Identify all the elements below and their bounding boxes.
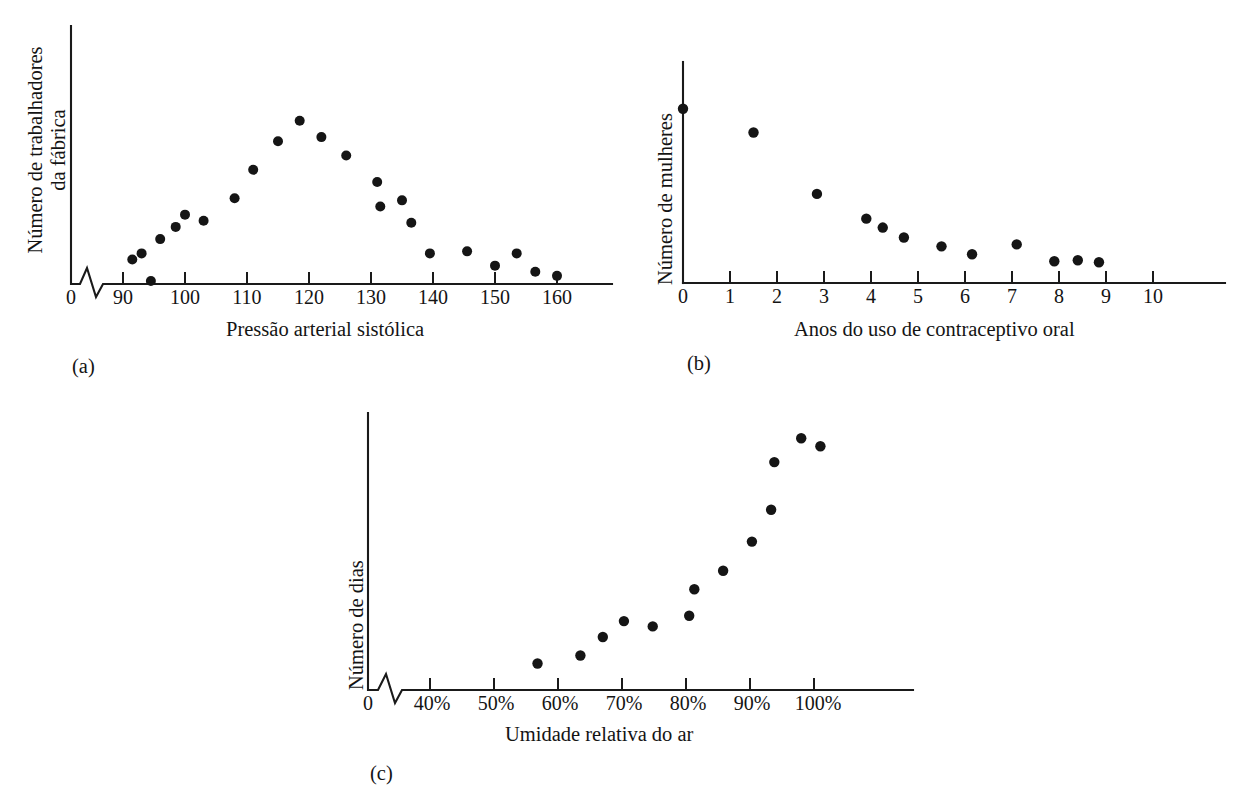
panel-b-x-ticks (683, 271, 1153, 283)
data-point (199, 216, 209, 226)
svg-text:6: 6 (960, 285, 970, 307)
data-point (1073, 255, 1083, 265)
svg-text:4: 4 (866, 285, 876, 307)
data-point (967, 249, 977, 259)
panel-c-plot: 0 40% 50% 60% 70% 80% 90% 100% (300, 400, 1000, 710)
panel-c-x-axis-label: Umidade relativa do ar (505, 723, 693, 746)
data-point (248, 165, 258, 175)
svg-text:120: 120 (294, 286, 324, 308)
svg-text:140: 140 (418, 286, 448, 308)
svg-text:40%: 40% (414, 692, 451, 714)
data-point (372, 177, 382, 187)
svg-text:60%: 60% (542, 692, 579, 714)
data-point (1094, 257, 1104, 267)
svg-text:10: 10 (1143, 285, 1163, 307)
data-point (375, 201, 385, 211)
svg-text:7: 7 (1007, 285, 1017, 307)
data-point (899, 232, 909, 242)
data-point (171, 222, 181, 232)
panel-c-x-ticks (430, 678, 814, 690)
data-point (552, 271, 562, 281)
svg-text:70%: 70% (606, 692, 643, 714)
data-point (530, 267, 540, 277)
svg-text:100: 100 (170, 286, 200, 308)
svg-text:50%: 50% (478, 692, 515, 714)
data-point (155, 234, 165, 244)
data-point (936, 241, 946, 251)
data-point (648, 621, 658, 631)
data-point (137, 248, 147, 258)
data-point (127, 255, 137, 265)
panel-a-origin-label: 0 (66, 286, 76, 308)
data-point (1012, 239, 1022, 249)
data-point (462, 246, 472, 256)
data-point (796, 433, 806, 443)
panel-b-x-tick-labels: 0 1 2 3 4 5 6 7 8 9 10 (678, 285, 1163, 307)
svg-text:90%: 90% (734, 692, 771, 714)
panel-b: Número de mulheres 0 1 2 3 4 5 6 7 (625, 0, 1250, 390)
data-point (146, 276, 156, 286)
data-point (406, 218, 416, 228)
data-point (748, 127, 758, 137)
svg-text:9: 9 (1101, 285, 1111, 307)
data-point (1049, 256, 1059, 266)
svg-text:90: 90 (113, 286, 133, 308)
data-point (180, 210, 190, 220)
data-point (397, 195, 407, 205)
svg-text:100%: 100% (795, 692, 842, 714)
svg-text:110: 110 (232, 286, 261, 308)
data-point (425, 248, 435, 258)
data-point (316, 132, 326, 142)
svg-text:5: 5 (913, 285, 923, 307)
panel-b-plot: 0 1 2 3 4 5 6 7 8 9 10 (625, 0, 1250, 310)
svg-text:0: 0 (678, 285, 688, 307)
data-point (861, 213, 871, 223)
data-point (684, 611, 694, 621)
panel-b-x-axis-label: Anos do uso de contraceptivo oral (794, 318, 1075, 341)
figure-page: { "figure": { "title": "", "panels": ["(… (0, 0, 1250, 800)
data-point (619, 616, 629, 626)
svg-text:8: 8 (1054, 285, 1064, 307)
data-point (766, 505, 776, 515)
data-point (295, 116, 305, 126)
data-point (341, 150, 351, 160)
data-point (532, 658, 542, 668)
data-point (769, 457, 779, 467)
panel-a: Número de trabalhadores da fábrica 0 90 … (0, 0, 625, 390)
svg-text:80%: 80% (670, 692, 707, 714)
svg-text:160: 160 (542, 286, 572, 308)
panel-b-data-points (678, 104, 1104, 268)
panel-a-letter: (a) (72, 355, 95, 378)
panel-a-x-axis-label: Pressão arterial sistólica (226, 318, 424, 341)
svg-text:150: 150 (480, 286, 510, 308)
data-point (598, 632, 608, 642)
panel-a-plot: 0 90 100 110 120 130 140 150 160 (0, 0, 625, 310)
panel-c-x-tick-labels: 0 40% 50% 60% 70% 80% 90% 100% (363, 692, 841, 714)
data-point (512, 248, 522, 258)
panel-c-axis-break-icon (368, 674, 412, 703)
data-point (747, 536, 757, 546)
panel-a-x-tick-labels: 0 90 100 110 120 130 140 150 160 (66, 286, 572, 308)
panel-a-x-ticks (123, 272, 557, 284)
data-point (878, 222, 888, 232)
svg-text:1: 1 (725, 285, 735, 307)
svg-text:2: 2 (772, 285, 782, 307)
data-point (812, 189, 822, 199)
panel-c-data-points (532, 433, 825, 669)
svg-text:130: 130 (356, 286, 386, 308)
panel-a-axis-break-icon (71, 268, 113, 297)
panel-c-letter: (c) (370, 762, 393, 785)
data-point (273, 136, 283, 146)
panel-b-letter: (b) (687, 352, 711, 375)
data-point (575, 650, 585, 660)
panel-c-origin-label: 0 (363, 692, 373, 714)
data-point (815, 441, 825, 451)
data-point (678, 104, 688, 114)
panel-a-data-points (127, 116, 562, 286)
svg-text:3: 3 (819, 285, 829, 307)
panel-c: Número de dias 0 40% 50% 60% 70% 80% 90%… (300, 400, 1000, 800)
data-point (718, 566, 728, 576)
data-point (689, 584, 699, 594)
data-point (230, 193, 240, 203)
data-point (490, 261, 500, 271)
